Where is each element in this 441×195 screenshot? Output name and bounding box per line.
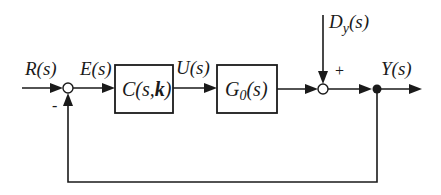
output-label: Y(s) bbox=[381, 58, 412, 80]
controller-block: C(s,k) bbox=[115, 65, 173, 113]
sum-output-wire bbox=[328, 84, 372, 94]
summing-junction-1 bbox=[63, 83, 73, 93]
arrowhead-icon bbox=[359, 84, 372, 94]
plant-block: G0(s) bbox=[217, 65, 277, 113]
reference-input-wire bbox=[22, 83, 63, 93]
controller-gain-vector: k bbox=[155, 78, 165, 100]
arrowhead-icon bbox=[63, 93, 73, 106]
reference-label: R(s) bbox=[24, 58, 57, 80]
plant-label-tail: (s) bbox=[246, 78, 267, 101]
plant-label: G bbox=[225, 78, 240, 100]
arrowhead-icon bbox=[204, 83, 217, 93]
arrowhead-icon bbox=[409, 84, 422, 94]
arrowhead-icon bbox=[305, 84, 318, 94]
error-label: E(s) bbox=[79, 58, 112, 80]
arrowhead-icon bbox=[50, 83, 63, 93]
plant-subscript: 0 bbox=[239, 88, 246, 103]
arrowhead-icon bbox=[102, 83, 115, 93]
block-diagram: R(s) - E(s) C(s,k) U(s) G0(s) Dy(s) + bbox=[0, 0, 441, 195]
disturbance-wire bbox=[318, 15, 328, 84]
disturbance-label: Dy(s) bbox=[328, 11, 369, 36]
error-wire bbox=[73, 83, 115, 93]
svg-text:G0(s): G0(s) bbox=[225, 78, 268, 103]
arrowhead-icon bbox=[318, 71, 328, 84]
plant-output-wire bbox=[277, 84, 318, 94]
controller-label-tail: ) bbox=[164, 78, 172, 101]
controller-label: C(s, bbox=[122, 78, 155, 101]
svg-text:C(s,k): C(s,k) bbox=[122, 78, 172, 101]
feedback-minus-sign: - bbox=[52, 97, 57, 114]
control-label: U(s) bbox=[176, 57, 210, 79]
disturbance-plus-sign: + bbox=[335, 62, 344, 79]
summing-junction-2 bbox=[318, 84, 328, 94]
control-wire bbox=[173, 83, 217, 93]
output-wire bbox=[377, 84, 422, 94]
